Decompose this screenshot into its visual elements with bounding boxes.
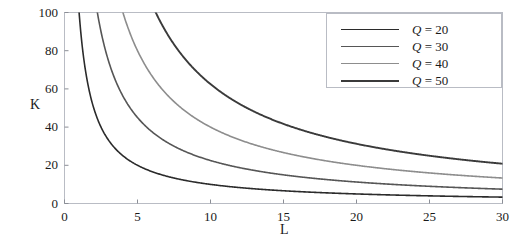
legend-label-1: Q = 30 (412, 39, 448, 55)
x-tick-label-0: 0 (45, 209, 85, 225)
legend-value-0: 20 (435, 22, 448, 37)
x-tick-label-2: 10 (191, 209, 231, 225)
x-tick-label-6: 30 (483, 209, 523, 225)
legend-equals-1: = (425, 39, 432, 54)
legend-value-1: 30 (435, 39, 448, 54)
x-tick-label-4: 20 (337, 209, 377, 225)
legend-swatch-2 (341, 63, 399, 64)
legend-swatch-0 (341, 29, 399, 30)
legend-label-3: Q = 50 (412, 73, 448, 89)
legend-item-0: Q = 20 (327, 22, 501, 37)
legend-item-2: Q = 40 (327, 56, 501, 71)
x-tick-label-5: 25 (410, 209, 450, 225)
y-tick-label-2: 40 (0, 119, 58, 135)
x-axis-ticks (65, 200, 503, 204)
legend-swatch-3 (341, 80, 399, 82)
y-tick-label-3: 60 (0, 81, 58, 97)
legend-equals-3: = (425, 73, 432, 88)
legend-swatch-1 (341, 46, 399, 47)
y-axis-ticks (65, 13, 69, 204)
legend: Q = 20 Q = 30 Q = 40 Q = (326, 13, 502, 88)
legend-value-2: 40 (435, 56, 448, 71)
legend-variable-1: Q (412, 39, 421, 54)
y-tick-label-5: 100 (0, 5, 58, 21)
legend-value-3: 50 (435, 73, 448, 88)
chart-figure: 020406080100 051015202530 K L Q = 20 Q =… (0, 0, 523, 245)
legend-item-1: Q = 30 (327, 39, 501, 54)
y-tick-label-1: 20 (0, 157, 58, 173)
legend-item-3: Q = 50 (327, 73, 501, 88)
y-axis-label: K (30, 97, 40, 113)
y-tick-label-4: 80 (0, 43, 58, 59)
legend-variable-2: Q (412, 56, 421, 71)
legend-label-2: Q = 40 (412, 56, 448, 72)
legend-variable-0: Q (412, 22, 421, 37)
legend-equals-0: = (425, 22, 432, 37)
legend-label-0: Q = 20 (412, 22, 448, 38)
x-axis-label: L (280, 222, 289, 238)
legend-equals-2: = (425, 56, 432, 71)
x-tick-label-1: 5 (118, 209, 158, 225)
legend-variable-3: Q (412, 73, 421, 88)
